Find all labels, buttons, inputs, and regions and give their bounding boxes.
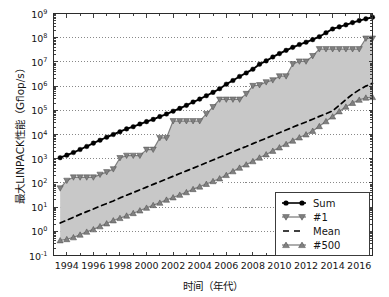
x-tick-label-1998: 1998: [108, 260, 132, 271]
y-tick-label-1e8: 108: [0, 32, 48, 44]
x-tick-label-2004: 2004: [188, 260, 212, 271]
x-axis-label-wrapper: 时间（年代）: [53, 275, 373, 294]
y-tick-label-1e5: 105: [0, 104, 48, 116]
legend-label-rank500: #500: [309, 240, 340, 251]
x-tick-label-2012: 2012: [294, 260, 318, 271]
legend-label-sum: Sum: [309, 198, 335, 209]
x-tick-label-1994: 1994: [55, 260, 79, 271]
y-tick-label-1e6: 106: [0, 80, 48, 92]
legend-symbol-mean: [279, 225, 309, 237]
y-tick-label-1e4: 104: [0, 128, 48, 140]
legend-label-rank1: #1: [309, 212, 328, 223]
chart-figure: 最大LINPACK性能（Gflop/s） 时间（年代） 199419961998…: [0, 0, 389, 297]
x-tick-label-1996: 1996: [81, 260, 105, 271]
x-tick-label-2002: 2002: [161, 260, 185, 271]
legend-symbol-rank1: [279, 211, 309, 223]
x-tick-label-2008: 2008: [241, 260, 265, 271]
legend-item-sum: Sum: [279, 196, 365, 210]
legend-symbol-rank500: [279, 239, 309, 251]
y-tick-label-1e9: 109: [0, 7, 48, 19]
y-tick-label-1e3: 103: [0, 153, 48, 165]
y-tick-label-1e1: 101: [0, 201, 48, 213]
x-tick-label-2014: 2014: [321, 260, 345, 271]
legend-symbol-sum: [279, 197, 309, 209]
legend-item-rank500: #500: [279, 238, 365, 252]
legend-label-mean: Mean: [309, 226, 340, 237]
x-tick-label-2006: 2006: [214, 260, 238, 271]
y-tick-label-1e7: 107: [0, 56, 48, 68]
chart-legend: Sum #1 Mean #500: [275, 192, 370, 256]
y-tick-label-1e0: 100: [0, 225, 48, 237]
x-tick-label-2000: 2000: [134, 260, 158, 271]
x-axis-label: 时间（年代）: [183, 280, 243, 292]
y-tick-label-1e2: 102: [0, 177, 48, 189]
x-tick-label-2016: 2016: [347, 260, 371, 271]
legend-item-mean: Mean: [279, 224, 365, 238]
y-tick-label-1e-1: 10-1: [0, 249, 48, 261]
legend-item-rank1: #1: [279, 210, 365, 224]
x-tick-label-2010: 2010: [267, 260, 291, 271]
